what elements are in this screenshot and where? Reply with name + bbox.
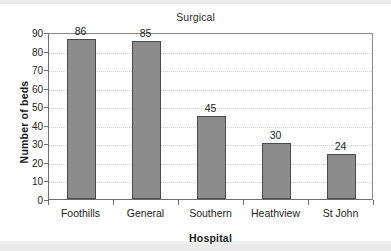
- y-tick-label: 70: [17, 65, 43, 76]
- x-tick-mark: [48, 200, 49, 205]
- y-tick-mark: [44, 181, 48, 182]
- y-tick-mark: [44, 70, 48, 71]
- bar-value-label: 30: [270, 129, 282, 141]
- y-tick-label: 40: [17, 120, 43, 131]
- bar-value-label: 45: [205, 102, 217, 114]
- x-tick-mark: [308, 200, 309, 205]
- bar: [67, 39, 96, 199]
- y-tick-label: 50: [17, 102, 43, 113]
- x-tick-label: St John: [323, 207, 359, 219]
- y-tick-mark: [44, 33, 48, 34]
- y-tick-mark: [44, 163, 48, 164]
- x-tick-mark: [243, 200, 244, 205]
- y-tick-mark: [44, 89, 48, 90]
- y-tick-label: 10: [17, 176, 43, 187]
- bar: [197, 116, 226, 200]
- gridline: [49, 71, 372, 72]
- scan-artifact-top: [0, 0, 391, 4]
- y-tick-mark: [44, 144, 48, 145]
- x-tick-mark: [373, 200, 374, 205]
- y-tick-label: 30: [17, 139, 43, 150]
- chart-screenshot: Surgical Number of beds 0102030405060708…: [0, 0, 391, 251]
- x-tick-label: Foothills: [61, 207, 100, 219]
- bar: [132, 41, 161, 199]
- bar-value-label: 85: [140, 27, 152, 39]
- bar-value-label: 24: [335, 140, 347, 152]
- chart-title: Surgical: [0, 11, 391, 23]
- bar: [327, 154, 356, 199]
- scan-artifact-bottom: [0, 244, 391, 251]
- y-tick-mark: [44, 107, 48, 108]
- y-tick-label: 80: [17, 46, 43, 57]
- gridline: [49, 90, 372, 91]
- x-tick-label: General: [127, 207, 164, 219]
- bar-value-label: 86: [75, 25, 87, 37]
- x-tick-mark: [178, 200, 179, 205]
- x-tick-mark: [113, 200, 114, 205]
- plot-area: [48, 33, 373, 200]
- y-tick-label: 60: [17, 83, 43, 94]
- x-axis-label: Hospital: [48, 232, 373, 244]
- x-tick-label: Heathview: [251, 207, 300, 219]
- y-tick-mark: [44, 52, 48, 53]
- gridline: [49, 53, 372, 54]
- y-tick-mark: [44, 126, 48, 127]
- bar: [262, 143, 291, 199]
- y-tick-label: 0: [17, 195, 43, 206]
- y-tick-label: 90: [17, 28, 43, 39]
- x-tick-label: Southern: [189, 207, 232, 219]
- y-tick-label: 20: [17, 157, 43, 168]
